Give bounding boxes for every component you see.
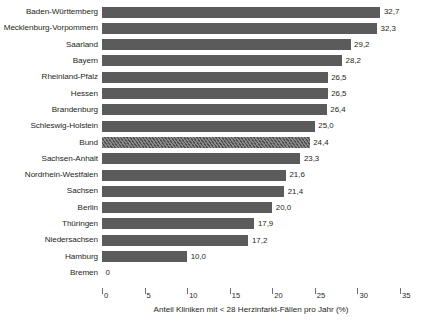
chart-row: Bremen0	[0, 265, 427, 281]
bar-track: 21,4	[102, 183, 427, 199]
bar	[102, 104, 327, 115]
bar-value-label: 26,4	[327, 104, 346, 115]
bar-track: 28,2	[102, 53, 427, 69]
bar	[102, 23, 377, 34]
x-axis-title: Anteil Kliniken mit < 28 Herzinfarkt-Fäl…	[102, 304, 400, 315]
chart-row: Hessen26,5	[0, 85, 427, 101]
bar-value-label: 26,5	[328, 72, 347, 83]
bar-value-label: 26,5	[328, 88, 347, 99]
category-label: Schleswig-Holstein	[0, 121, 102, 131]
bar-value-label: 0	[102, 267, 110, 278]
bar-value-label: 20,0	[272, 202, 291, 213]
bar-track: 25,0	[102, 118, 427, 134]
tick-mark	[145, 288, 146, 294]
bar-track: 26,5	[102, 85, 427, 101]
bar-track: 17,2	[102, 232, 427, 248]
bar-track: 32,7	[102, 4, 427, 20]
category-label: Bayern	[0, 56, 102, 66]
chart-row: Hamburg10,0	[0, 248, 427, 264]
bar	[102, 7, 380, 18]
tick-label: 15	[232, 291, 240, 300]
category-label: Sachsen	[0, 186, 102, 196]
chart-row: Brandenburg26,4	[0, 102, 427, 118]
tick-mark	[272, 288, 273, 294]
bar-value-label: 24,4	[310, 137, 329, 148]
tick-mark	[187, 288, 188, 294]
bar-value-label: 10,0	[187, 251, 206, 262]
tick-mark	[230, 288, 231, 294]
bar-track: 21,6	[102, 167, 427, 183]
category-label: Mecklenburg-Vorpommern	[0, 23, 102, 33]
chart-row: Thüringen17,9	[0, 216, 427, 232]
bar-value-label: 17,9	[254, 218, 273, 229]
category-label: Thüringen	[0, 219, 102, 229]
tick-label: 25	[317, 291, 325, 300]
chart-row: Baden-Württemberg32,7	[0, 4, 427, 20]
bar-value-label: 17,2	[248, 235, 267, 246]
bar	[102, 153, 300, 164]
tick-mark	[315, 288, 316, 294]
chart-row: Sachsen21,4	[0, 183, 427, 199]
bar	[102, 170, 286, 181]
chart-plot-area: Baden-Württemberg32,7Mecklenburg-Vorpomm…	[0, 4, 427, 281]
chart-row: Schleswig-Holstein25,0	[0, 118, 427, 134]
chart-row: Saarland29,2	[0, 37, 427, 53]
bar-chart: Baden-Württemberg32,7Mecklenburg-Vorpomm…	[0, 0, 427, 329]
x-axis: Anteil Kliniken mit < 28 Herzinfarkt-Fäl…	[102, 288, 427, 329]
category-label: Niedersachsen	[0, 235, 102, 245]
bar	[102, 88, 328, 99]
bar-value-label: 32,7	[380, 6, 399, 17]
chart-row: Bayern28,2	[0, 53, 427, 69]
tick-mark	[357, 288, 358, 294]
bar-value-label: 21,6	[286, 169, 305, 180]
chart-row: Bund24,4	[0, 134, 427, 150]
bar-highlight	[102, 137, 310, 148]
bar	[102, 202, 272, 213]
bar-track: 10,0	[102, 248, 427, 264]
bar-track: 20,0	[102, 200, 427, 216]
tick-label: 5	[147, 291, 151, 300]
category-label: Bund	[0, 138, 102, 148]
bar-track: 29,2	[102, 37, 427, 53]
bar-track: 23,3	[102, 151, 427, 167]
bar-track: 0	[102, 265, 427, 281]
chart-row: Mecklenburg-Vorpommern32,3	[0, 20, 427, 36]
tick-label: 30	[359, 291, 367, 300]
bar-value-label: 25,0	[315, 120, 334, 131]
chart-row: Niedersachsen17,2	[0, 232, 427, 248]
bar	[102, 235, 248, 246]
bar	[102, 72, 328, 83]
category-label: Bremen	[0, 268, 102, 278]
bar-track: 17,9	[102, 216, 427, 232]
bar-track: 26,5	[102, 69, 427, 85]
bar	[102, 55, 342, 66]
tick-label: 0	[104, 291, 108, 300]
bar-value-label: 21,4	[284, 186, 303, 197]
category-label: Sachsen-Anhalt	[0, 154, 102, 164]
category-label: Baden-Württemberg	[0, 7, 102, 17]
chart-row: Berlin20,0	[0, 200, 427, 216]
category-label: Hessen	[0, 89, 102, 99]
category-label: Saarland	[0, 40, 102, 50]
category-label: Nordrhein-Westfalen	[0, 170, 102, 180]
category-label: Hamburg	[0, 252, 102, 262]
chart-row: Sachsen-Anhalt23,3	[0, 151, 427, 167]
bar	[102, 218, 254, 229]
bar-value-label: 28,2	[342, 55, 361, 66]
bar	[102, 251, 187, 262]
tick-label: 10	[189, 291, 197, 300]
bar	[102, 121, 315, 132]
tick-mark	[102, 288, 103, 294]
bar-track: 24,4	[102, 134, 427, 150]
tick-mark	[400, 288, 401, 294]
bar	[102, 186, 284, 197]
bar-track: 26,4	[102, 102, 427, 118]
bar-track: 32,3	[102, 20, 427, 36]
category-label: Rheinland-Pfalz	[0, 72, 102, 82]
tick-label: 20	[274, 291, 282, 300]
category-label: Brandenburg	[0, 105, 102, 115]
chart-row: Nordrhein-Westfalen21,6	[0, 167, 427, 183]
tick-label: 35	[402, 291, 410, 300]
bar-value-label: 29,2	[351, 39, 370, 50]
chart-row: Rheinland-Pfalz26,5	[0, 69, 427, 85]
